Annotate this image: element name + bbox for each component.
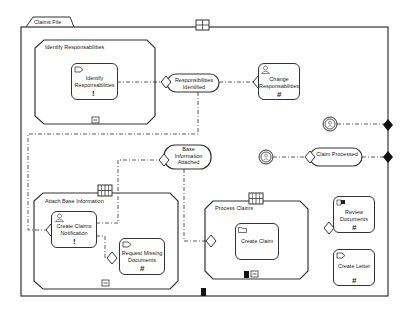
task-request-missing-documents[interactable]: Request Missing Documents #: [119, 238, 165, 275]
state-claim-processed[interactable]: Claim Processed: [316, 151, 358, 158]
filled-gateway-icon: [383, 119, 393, 131]
folder-icon: [238, 226, 247, 233]
state-responsibilities-identified[interactable]: Responsibilities Identified: [171, 77, 217, 90]
black-marker-icon: [244, 271, 249, 278]
collapse-icon: [92, 117, 99, 123]
subprocess-attach-label[interactable]: Attach Base Information: [45, 198, 104, 204]
pool-grid-icon: [196, 20, 209, 30]
pool-label: Claims File: [34, 19, 61, 25]
state-base-information-attached[interactable]: Base Information Attached: [168, 146, 209, 166]
task-change-responsabilities[interactable]: Change Responsabilities #: [258, 63, 300, 100]
task-identify-responsabilities[interactable]: Identify Responsabilities !: [71, 63, 118, 100]
grid-icon: [98, 185, 112, 196]
send-message-icon: [336, 252, 346, 259]
task-create-letter[interactable]: Create Letter #: [333, 249, 375, 286]
send-message-icon: [122, 241, 132, 248]
intermediate-event-icon: [259, 150, 273, 164]
start-event-icon: [323, 117, 337, 131]
collapse-icon: [251, 271, 258, 277]
task-create-claim[interactable]: Create Claim: [235, 223, 279, 260]
subprocess-process-label[interactable]: Process Claims: [215, 205, 253, 211]
filled-gateway-icon: [383, 151, 393, 163]
task-create-claims-notification[interactable]: Create Claims Notification !: [51, 211, 97, 248]
collapse-icon: [102, 280, 109, 286]
manual-task-icon: [336, 198, 346, 206]
send-message-icon: [74, 66, 84, 73]
grid-icon: [249, 193, 263, 204]
task-review-documents[interactable]: Review Documents #: [333, 196, 375, 233]
subprocess-identify-label[interactable]: Identify Responsabilities: [45, 44, 104, 50]
user-icon: [261, 65, 270, 74]
user-icon: [55, 213, 64, 222]
black-marker-icon: [201, 288, 206, 296]
